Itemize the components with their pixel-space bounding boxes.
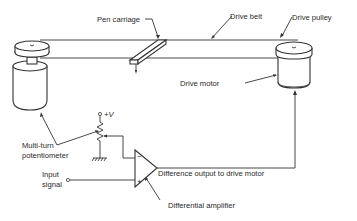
- label-drive-motor: Drive motor: [180, 79, 220, 88]
- amp-minus-label: −: [137, 152, 142, 161]
- input-signal-wire: [66, 178, 135, 181]
- label-potentiometer-1: Multi-turn: [22, 141, 54, 150]
- label-difference-output: Difference output to drive motor: [158, 169, 265, 178]
- output-wire: [157, 90, 297, 168]
- drive-motor-assembly: [276, 42, 312, 88]
- differential-amplifier: − +: [135, 150, 157, 187]
- plotter-diagram: − + Pen carriage Drive belt Drive pulley…: [0, 0, 357, 221]
- left-pulley-assembly: [13, 41, 49, 110]
- label-input-2: signal: [42, 180, 62, 189]
- pen-carriage: [130, 40, 166, 74]
- drive-belt: [40, 40, 298, 58]
- label-pen-carriage: Pen carriage: [97, 15, 140, 24]
- label-potentiometer-2: potentiometer: [22, 151, 69, 160]
- label-supply-voltage: +V: [104, 110, 114, 119]
- amp-plus-label: +: [137, 177, 142, 186]
- potentiometer-circuit: [92, 112, 135, 161]
- label-drive-belt: Drive belt: [230, 12, 263, 21]
- label-differential-amplifier: Differential amplifier: [168, 201, 235, 210]
- label-input-1: Input: [42, 170, 60, 179]
- label-drive-pulley: Drive pulley: [292, 13, 332, 22]
